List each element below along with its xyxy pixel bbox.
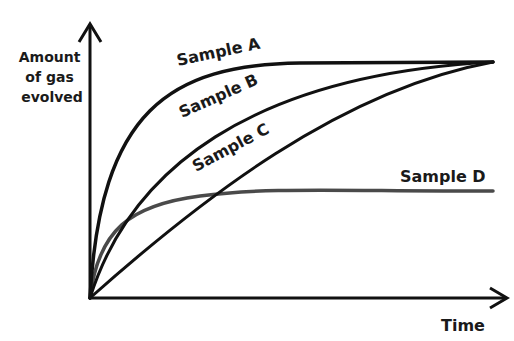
curve-sample-d bbox=[90, 190, 493, 298]
label-sample-b: Sample B bbox=[176, 70, 261, 122]
y-axis-label: Amount of gas evolved bbox=[19, 49, 86, 105]
x-axis-label: Time bbox=[441, 316, 485, 335]
label-sample-d: Sample D bbox=[400, 167, 486, 186]
label-sample-a: Sample A bbox=[175, 34, 262, 70]
gas-evolution-chart: Amount of gas evolved Time Sample A Samp… bbox=[0, 0, 514, 341]
